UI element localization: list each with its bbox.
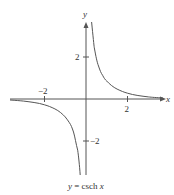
csch-graph: y x −2 2 2 −2 y = csch x (0, 0, 174, 195)
tick-label-x-neg2: −2 (38, 86, 48, 96)
tick-label-y-neg2: −2 (90, 136, 100, 146)
tick-label-x-pos2: 2 (125, 104, 130, 114)
tick-label-y-pos2: 2 (75, 52, 80, 62)
curve-negative-branch (10, 100, 80, 175)
chart-caption: y = csch x (67, 181, 104, 191)
y-axis-label: y (82, 9, 87, 19)
x-axis-label: x (165, 94, 170, 104)
y-axis-arrow-icon (84, 22, 89, 28)
curve-positive-branch (92, 22, 163, 98)
caption-x: x (99, 181, 104, 191)
caption-eq: = csch (72, 181, 100, 191)
